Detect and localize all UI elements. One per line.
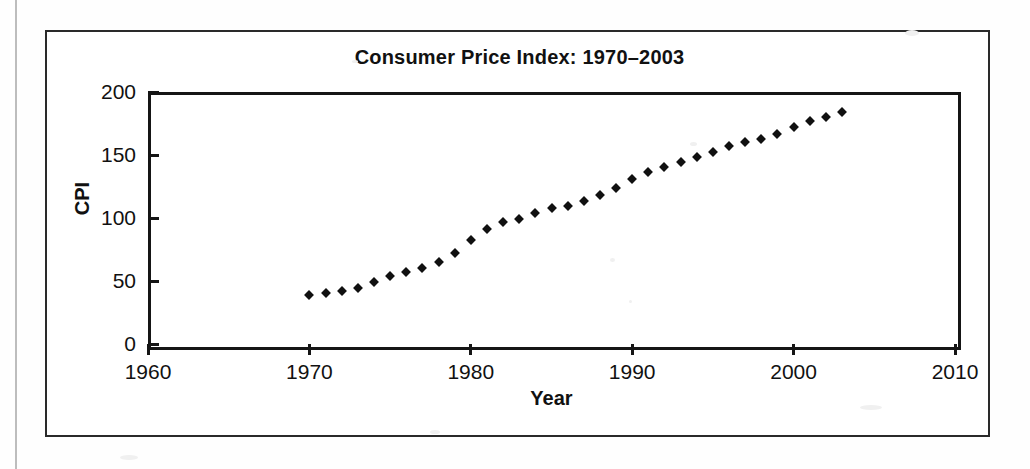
chart-title: Consumer Price Index: 1970–2003 <box>47 46 992 69</box>
x-axis-tick <box>147 344 150 355</box>
diamond-marker <box>579 196 589 206</box>
diamond-marker <box>498 217 508 227</box>
y-axis-title: CPI <box>71 154 94 244</box>
diamond-marker <box>434 257 444 267</box>
diamond-marker <box>692 152 702 162</box>
y-axis-tick-label: 50 <box>113 269 136 293</box>
diamond-marker <box>708 147 718 157</box>
diamond-marker <box>353 283 363 293</box>
diamond-marker <box>482 225 492 235</box>
diamond-marker <box>805 116 815 126</box>
diamond-marker <box>789 122 799 132</box>
diamond-marker <box>740 137 750 147</box>
diamond-marker <box>660 162 670 172</box>
figure-container: Consumer Price Index: 1970–2003 05010015… <box>45 30 990 437</box>
diamond-marker <box>530 208 540 218</box>
diamond-marker <box>837 107 847 117</box>
y-axis-tick-label: 100 <box>101 206 136 230</box>
diamond-marker <box>514 214 524 224</box>
x-axis-tick <box>631 344 634 355</box>
x-axis-tick <box>308 344 311 355</box>
diamond-marker <box>385 271 395 281</box>
x-axis-tick <box>469 344 472 355</box>
diamond-marker <box>643 167 653 177</box>
diamond-marker <box>337 286 347 296</box>
diamond-marker <box>563 201 573 211</box>
data-series-points <box>148 92 955 344</box>
diamond-marker <box>321 288 331 298</box>
diamond-marker <box>821 112 831 122</box>
y-axis-tick-label: 200 <box>101 80 136 104</box>
diamond-marker <box>466 235 476 245</box>
diamond-marker <box>724 141 734 151</box>
diamond-marker <box>773 129 783 139</box>
x-axis-tick-label: 1970 <box>286 360 333 384</box>
diamond-marker <box>401 267 411 277</box>
y-axis-tick-label: 150 <box>101 143 136 167</box>
diamond-marker <box>369 277 379 287</box>
diamond-marker <box>304 290 314 300</box>
diamond-marker <box>676 157 686 167</box>
x-axis-title: Year <box>148 387 955 410</box>
page-margin-rule <box>15 0 17 469</box>
diamond-marker <box>547 203 557 213</box>
paper-speckle <box>120 455 138 460</box>
x-axis-tick <box>792 344 795 355</box>
scanned-page: Consumer Price Index: 1970–2003 05010015… <box>0 0 1030 469</box>
diamond-marker <box>417 263 427 273</box>
x-axis-tick-label: 2000 <box>770 360 817 384</box>
diamond-marker <box>595 190 605 200</box>
diamond-marker <box>450 248 460 258</box>
y-axis-tick-label: 0 <box>124 332 136 356</box>
y-axis-tick-labels: 050100150200 <box>47 92 148 344</box>
x-axis-tick <box>954 344 957 355</box>
x-axis-tick-label: 2010 <box>932 360 979 384</box>
diamond-marker <box>756 134 766 144</box>
diamond-marker <box>627 174 637 184</box>
diamond-marker <box>611 183 621 193</box>
x-axis-tick-label: 1960 <box>125 360 172 384</box>
x-axis-tick-label: 1980 <box>447 360 494 384</box>
x-axis-tick-label: 1990 <box>609 360 656 384</box>
